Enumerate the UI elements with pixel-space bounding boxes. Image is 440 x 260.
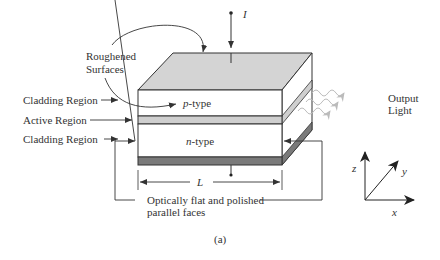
n-type-label: n-type	[186, 135, 214, 147]
diagram-graphics	[0, 0, 440, 260]
cladding-region-top-label: Cladding Region	[23, 94, 98, 106]
roughened-arrow-top	[112, 25, 203, 52]
active-region-label: Active Region	[23, 114, 87, 126]
y-axis-label: y	[402, 165, 407, 177]
bottom-contact	[138, 157, 282, 165]
roughened-label-line1: Roughened	[86, 50, 136, 62]
p-type-label: p-type	[183, 97, 211, 109]
active-layer	[138, 116, 282, 124]
output-light-line1: Output	[388, 92, 419, 104]
polished-faces-bracket	[115, 139, 135, 200]
polished-faces-line2: parallel faces	[147, 206, 205, 218]
length-label: L	[197, 176, 203, 188]
polished-faces-line1: Optically flat and polished	[147, 194, 264, 206]
figure-caption: (a)	[214, 233, 226, 245]
cladding-region-bottom-label: Cladding Region	[23, 133, 98, 145]
current-label: I	[243, 8, 247, 20]
led-structure-diagram: I Roughened Surfaces Cladding Region Act…	[0, 0, 440, 260]
roughened-label-line2: Surfaces	[86, 63, 124, 75]
output-light-line2: Light	[388, 104, 412, 116]
x-axis-label: x	[392, 206, 397, 218]
z-axis-label: z	[352, 162, 356, 174]
